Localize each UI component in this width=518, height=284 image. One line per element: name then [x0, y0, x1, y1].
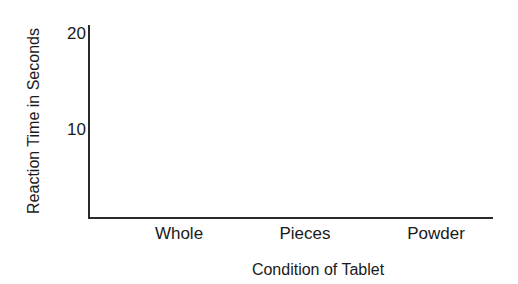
y-tick-20: 20: [67, 24, 86, 44]
x-axis-line: [88, 217, 493, 219]
x-axis-label: Condition of Tablet: [252, 261, 384, 279]
x-tick-powder: Powder: [407, 224, 465, 244]
y-tick-10: 10: [67, 120, 86, 140]
x-tick-whole: Whole: [155, 224, 203, 244]
y-axis-line: [88, 25, 90, 219]
y-axis-label: Reaction Time in Seconds: [25, 28, 43, 214]
x-tick-pieces: Pieces: [279, 224, 330, 244]
